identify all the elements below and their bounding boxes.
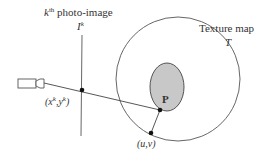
image-plane-line — [81, 35, 82, 136]
texture-projection-diagram: kth photo-image Ik Texture map T P (xk,y… — [0, 0, 275, 162]
texture-point-dot — [149, 131, 154, 136]
camera-icon — [18, 79, 44, 88]
image-point-dot — [80, 88, 85, 93]
point-p-label: P — [162, 94, 169, 105]
surface-point-dot — [158, 108, 163, 113]
image-coord-label: (xk,yk) — [45, 96, 69, 107]
texture-symbol-label: T — [225, 37, 231, 48]
image-symbol-label: Ik — [77, 21, 84, 32]
texture-coord-label: (u,v) — [137, 139, 156, 149]
mapping-line — [151, 110, 160, 133]
texture-map-label: Texture map — [199, 23, 254, 34]
photo-image-label: kth photo-image — [44, 7, 113, 18]
